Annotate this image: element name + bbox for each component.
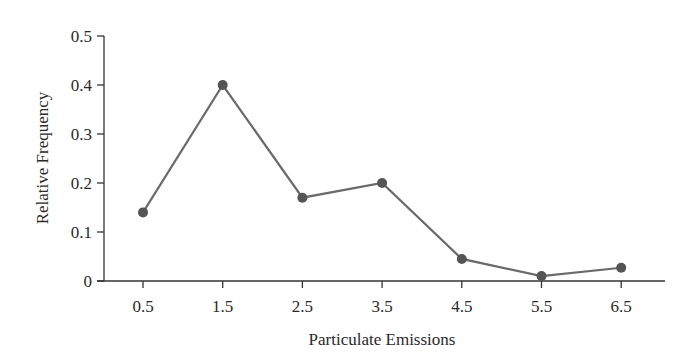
x-tick-label: 3.5 — [371, 297, 392, 316]
y-tick-label: 0.1 — [71, 223, 92, 242]
x-tick-label: 0.5 — [132, 297, 153, 316]
x-tick-label: 6.5 — [611, 297, 632, 316]
data-point-marker — [138, 207, 148, 217]
data-point-marker — [297, 193, 307, 203]
y-axis: 00.10.20.30.40.5 — [71, 27, 104, 291]
data-point-marker — [616, 263, 626, 273]
x-axis-label: Particulate Emissions — [309, 330, 456, 349]
y-tick-label: 0.3 — [71, 125, 92, 144]
data-point-marker — [218, 80, 228, 90]
y-tick-label: 0.4 — [71, 76, 93, 95]
y-tick-label: 0.5 — [71, 27, 92, 46]
data-series — [138, 80, 626, 281]
data-point-marker — [377, 178, 387, 188]
x-tick-label: 2.5 — [292, 297, 313, 316]
x-axis: 0.51.52.53.54.55.56.5 — [97, 281, 665, 316]
data-point-marker — [537, 271, 547, 281]
y-tick-label: 0.2 — [71, 174, 92, 193]
data-point-marker — [457, 254, 467, 264]
x-tick-label: 5.5 — [531, 297, 552, 316]
line-chart: 00.10.20.30.40.5 0.51.52.53.54.55.56.5 R… — [0, 0, 689, 363]
y-axis-label: Relative Frequency — [33, 91, 52, 224]
y-tick-label: 0 — [84, 272, 93, 291]
x-tick-label: 4.5 — [451, 297, 472, 316]
x-tick-label: 1.5 — [212, 297, 233, 316]
